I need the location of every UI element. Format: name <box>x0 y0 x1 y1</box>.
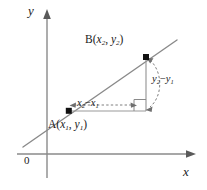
delta-x-left-arrowhead-icon <box>70 103 77 108</box>
point-b-x-var: x <box>97 33 102 45</box>
delta-y-second-var: y <box>166 73 171 84</box>
delta-x-label: x2−x1 <box>77 98 99 109</box>
delta-x-first-subscript: 2 <box>82 102 85 109</box>
point-a-close-paren: ) <box>83 118 87 130</box>
coordinate-geometry-figure: y x 0 B(x2, y2) A(x1, y1) x2−x1 y2−y1 <box>0 0 207 190</box>
figure-canvas <box>0 0 207 190</box>
origin-label: 0 <box>24 155 30 166</box>
point-marker-a <box>66 108 72 114</box>
delta-y-first-var: y <box>152 73 157 84</box>
y-axis-label: y <box>28 4 34 17</box>
x-axis-label: x <box>183 165 189 178</box>
x-axis-arrowhead-icon <box>186 150 196 158</box>
delta-x-second-var: x <box>91 97 96 108</box>
delta-y-label: y2−y1 <box>152 74 174 85</box>
point-b-y-subscript: 2 <box>116 39 120 47</box>
point-b-label: B(x2, y2) <box>85 34 123 46</box>
delta-y-first-subscript: 2 <box>157 78 160 85</box>
graph-line-through-points <box>23 40 177 147</box>
point-a-label: A(x1, y1) <box>48 119 87 131</box>
point-b-close-paren: ) <box>120 33 124 45</box>
delta-y-second-subscript: 1 <box>171 78 174 85</box>
point-b-comma: , <box>105 33 108 45</box>
point-b-name: B <box>85 33 93 45</box>
delta-x-first-var: x <box>77 97 82 108</box>
point-a-x-subscript: 1 <box>65 124 69 132</box>
point-a-y-subscript: 1 <box>80 124 84 132</box>
point-a-y-var: y <box>75 118 80 130</box>
point-b-x-subscript: 2 <box>102 39 106 47</box>
point-a-comma: , <box>69 118 72 130</box>
y-axis-arrowhead-icon <box>43 9 51 19</box>
point-marker-b <box>143 54 149 60</box>
delta-x-second-subscript: 1 <box>96 102 99 109</box>
